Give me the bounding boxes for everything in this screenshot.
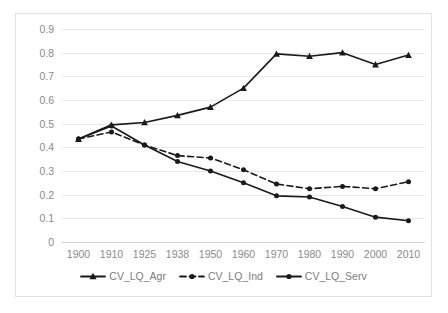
y-axis-tick-label: 0.8 [39,47,54,59]
y-axis-tick-label: 0.7 [39,70,54,82]
x-axis-labels: 1900191019251938195019601970198019902000… [67,248,421,260]
data-point-marker [340,184,345,189]
data-point-marker [109,124,114,129]
x-axis-tick-label: 1960 [232,248,256,260]
y-axis-tick-label: 0.2 [39,189,54,201]
y-axis-tick-label: 0.6 [39,94,54,106]
circle-marker-icon [276,271,302,282]
x-axis-tick-label: 1910 [100,248,124,260]
y-axis-tick-label: 0 [48,236,54,248]
y-axis-tick-label: 0.5 [39,118,54,130]
chart-container: 0.90.80.70.60.50.40.30.20.10 19001910192… [15,13,432,297]
y-axis-tick-label: 0.3 [39,165,54,177]
x-axis-tick-label: 1980 [298,248,322,260]
data-point-marker [76,137,81,142]
data-point-marker [175,159,180,164]
x-axis-tick-label: 1925 [133,248,157,260]
triangle-marker-icon [80,271,106,282]
legend-label: CV_LQ_Ind [208,270,263,282]
legend-item-CV_LQ_Agr[interactable]: CV_LQ_Agr [80,270,166,282]
data-point-marker [208,155,213,160]
data-point-marker [109,129,114,134]
y-axis-tick-label: 0.1 [39,212,54,224]
gridlines [62,30,425,243]
y-axis-tick-label: 0.9 [39,23,54,35]
x-axis-tick-label: 1900 [67,248,91,260]
y-axis-labels: 0.90.80.70.60.50.40.30.20.10 [39,23,54,248]
data-series [75,49,412,223]
data-point-marker [142,142,147,147]
data-point-marker [207,104,214,110]
data-point-marker [208,169,213,174]
x-axis-tick-label: 2000 [364,248,388,260]
legend-label: CV_LQ_Serv [305,270,367,282]
data-point-marker [241,180,246,185]
data-point-marker [175,153,180,158]
x-axis-tick-label: 1990 [331,248,355,260]
series-CV_LQ_Agr [75,49,412,142]
line-chart-plot: 0.90.80.70.60.50.40.30.20.10 19001910192… [16,14,431,296]
data-point-marker [373,215,378,220]
y-axis-tick-label: 0.4 [39,141,54,153]
legend-item-CV_LQ_Ind[interactable]: CV_LQ_Ind [179,270,263,282]
data-point-marker [274,182,279,187]
data-point-marker [406,179,411,184]
data-point-marker [274,193,279,198]
data-point-marker [373,186,378,191]
data-point-marker [406,218,411,223]
data-point-marker [307,186,312,191]
chart-legend: CV_LQ_AgrCV_LQ_IndCV_LQ_Serv [16,270,431,282]
x-axis-tick-label: 1950 [199,248,223,260]
x-axis-tick-label: 2010 [397,248,421,260]
legend-label: CV_LQ_Agr [109,270,166,282]
circle-marker-icon [179,271,205,282]
legend-item-CV_LQ_Serv[interactable]: CV_LQ_Serv [276,270,367,282]
data-point-marker [241,167,246,172]
data-point-marker [340,204,345,209]
x-axis-tick-label: 1970 [265,248,289,260]
data-point-marker [307,195,312,200]
data-point-marker [405,52,412,58]
x-axis-tick-label: 1938 [166,248,190,260]
